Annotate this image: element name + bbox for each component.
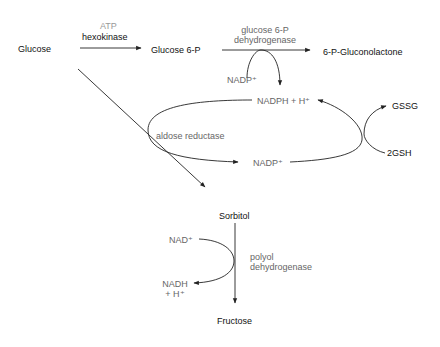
- node-2gsh: 2GSH: [387, 148, 412, 158]
- cofactor-nadh-line2: + H⁺: [160, 289, 190, 299]
- node-glucose-6p: Glucose 6-P: [151, 45, 201, 55]
- node-glucose: Glucose: [18, 44, 51, 54]
- gsh-to-gssg-curve: [364, 106, 386, 153]
- enzyme-polyol-line2: dehydrogenase: [250, 262, 312, 272]
- enzyme-aldose-reductase: aldose reductase: [156, 131, 225, 141]
- node-gssg: GSSG: [392, 101, 418, 111]
- cofactor-nadp-top: NADP⁺: [227, 75, 257, 85]
- node-fructose: Fructose: [217, 316, 252, 326]
- glutathione-reductase-loop-right: [290, 100, 362, 162]
- node-gluconolactone: 6-P-Gluconolactone: [323, 47, 403, 57]
- enzyme-polyol-line1: polyol: [250, 252, 274, 262]
- enzyme-g6pd-line2: dehydrogenase: [230, 35, 300, 45]
- cofactor-nad: NAD⁺: [169, 235, 193, 245]
- cofactor-atp: ATP: [100, 21, 117, 31]
- enzyme-g6pd-line1: glucose 6-P: [230, 25, 300, 35]
- cofactor-nadh-line1: NADH: [160, 279, 190, 289]
- nad-to-nadh-curve: [194, 239, 234, 283]
- cofactor-nadph: NADPH + H⁺: [257, 96, 310, 106]
- enzyme-hexokinase: hexokinase: [82, 32, 128, 42]
- node-sorbitol: Sorbitol: [219, 211, 250, 221]
- glucose-to-sorbitol-arrow: [78, 69, 205, 187]
- cofactor-nadp-loop: NADP⁺: [253, 158, 283, 168]
